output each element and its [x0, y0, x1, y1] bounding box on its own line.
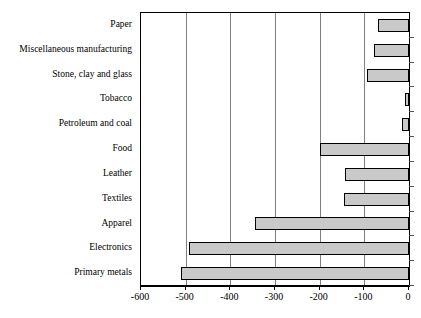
x-tick [229, 286, 230, 290]
category-label: Paper [110, 12, 132, 37]
x-tick-label: -300 [254, 291, 294, 302]
x-tick [408, 286, 409, 290]
category-label: Stone, clay and glass [52, 62, 132, 87]
x-tick-label: -600 [120, 291, 160, 302]
category-tick [409, 62, 414, 63]
x-tick [319, 286, 320, 290]
category-axis-labels: PaperMiscellaneous manufacturingStone, c… [0, 12, 136, 285]
category-tick [409, 37, 414, 38]
bar-row [141, 87, 409, 112]
category-tick [409, 86, 414, 87]
bar[interactable] [344, 193, 409, 206]
bar[interactable] [405, 93, 409, 106]
bar-row [141, 212, 409, 237]
bar[interactable] [378, 19, 409, 32]
bar-row [141, 137, 409, 162]
bars-layer [141, 13, 409, 286]
x-tick [363, 286, 364, 290]
x-tick-label: -200 [299, 291, 339, 302]
bar[interactable] [255, 217, 409, 230]
category-label: Food [112, 136, 132, 161]
category-label: Miscellaneous manufacturing [19, 37, 132, 62]
x-tick-label: -500 [165, 291, 205, 302]
x-tick [274, 286, 275, 290]
x-tick [140, 286, 141, 290]
x-tick-label: -400 [209, 291, 249, 302]
bar[interactable] [320, 143, 409, 156]
bar[interactable] [367, 69, 409, 82]
bar[interactable] [345, 168, 409, 181]
bar-row [141, 236, 409, 261]
bar-row [141, 261, 409, 286]
bar[interactable] [189, 242, 409, 255]
category-label: Apparel [101, 211, 132, 236]
x-tick [185, 286, 186, 290]
bar[interactable] [374, 44, 409, 57]
bar-chart: PaperMiscellaneous manufacturingStone, c… [0, 0, 421, 318]
category-label: Electronics [89, 235, 132, 260]
x-tick-label: -100 [343, 291, 383, 302]
plot-area [140, 12, 410, 287]
category-label: Textiles [102, 186, 132, 211]
category-tick [409, 186, 414, 187]
category-tick [409, 285, 414, 286]
bar[interactable] [181, 267, 409, 280]
bar-row [141, 112, 409, 137]
category-tick [409, 260, 414, 261]
bar[interactable] [402, 118, 409, 131]
bar-row [141, 162, 409, 187]
category-label: Leather [103, 161, 132, 186]
category-label: Petroleum and coal [59, 111, 132, 136]
category-tick [409, 211, 414, 212]
bar-row [141, 187, 409, 212]
bar-row [141, 13, 409, 38]
category-label: Tobacco [100, 86, 132, 111]
x-tick-label: 0 [388, 291, 421, 302]
category-tick [409, 111, 414, 112]
category-tick [409, 136, 414, 137]
bar-row [141, 38, 409, 63]
bar-row [141, 63, 409, 88]
category-label: Primary metals [74, 260, 132, 285]
category-tick [409, 235, 414, 236]
category-tick [409, 161, 414, 162]
